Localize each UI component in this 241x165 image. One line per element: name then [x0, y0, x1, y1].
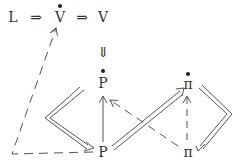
dot-accent-P [101, 69, 105, 73]
node-P-dot: P [98, 76, 107, 90]
double-edge-pidot-to-pi [196, 85, 232, 151]
node-L: L [8, 10, 17, 24]
node-P: P [98, 145, 107, 159]
double-edge-Pdot-to-P [45, 87, 94, 151]
down-implies-arrow: ⇓ [97, 45, 109, 59]
double-edge-P-to-pidot [112, 88, 184, 150]
dot-accent-V [58, 4, 62, 8]
dashed-edge-P-to-Vdot [12, 28, 93, 154]
implies-arrow-1: ⇒ [30, 10, 42, 24]
implies-arrow-2: ⇒ [76, 10, 88, 24]
node-pi: π [183, 145, 192, 159]
node-pi-dot: π [183, 77, 192, 91]
node-V: V [98, 10, 108, 24]
node-V-dot: V [55, 10, 65, 24]
